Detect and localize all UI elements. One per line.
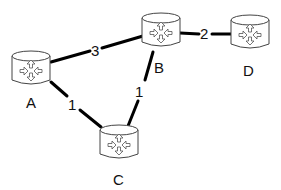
router-node-a[interactable]: A <box>12 51 50 111</box>
edge-weight-a-b: 3 <box>91 42 99 59</box>
network-diagram: 3 2 1 1 A B C D <box>0 0 281 190</box>
edge-weight-b-c: 1 <box>135 83 143 100</box>
edge-a-b: 3 <box>51 36 143 62</box>
router-icon <box>12 51 50 84</box>
router-icon <box>100 125 138 158</box>
edge-b-c: 1 <box>128 52 153 126</box>
router-node-c[interactable]: C <box>100 125 138 188</box>
node-label-b: B <box>154 59 164 76</box>
edge-weight-b-d: 2 <box>200 25 208 42</box>
node-label-a: A <box>26 94 36 111</box>
router-icon <box>142 13 180 46</box>
edge-b-d: 2 <box>180 25 231 42</box>
node-label-c: C <box>113 171 124 188</box>
edge-a-c: 1 <box>51 82 101 127</box>
node-label-d: D <box>243 62 254 79</box>
edge-weight-a-c: 1 <box>68 96 76 113</box>
router-icon <box>231 15 269 48</box>
router-node-d[interactable]: D <box>231 15 269 79</box>
